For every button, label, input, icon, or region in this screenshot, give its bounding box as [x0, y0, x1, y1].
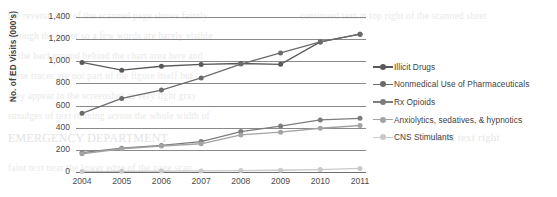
legend-item[interactable]: CNS Stimulants — [373, 128, 555, 146]
x-axis-tick-label: 2008 — [224, 176, 258, 186]
legend-item-label: CNS Stimulants — [393, 132, 453, 142]
y-axis-tick-label: 600 — [26, 100, 70, 110]
x-axis-tick-label: 2005 — [105, 176, 139, 186]
x-axis-tick-labels: 20042005200620072008200920102011 — [76, 176, 366, 192]
x-axis-tick-label: 2004 — [65, 176, 99, 186]
data-point — [238, 62, 243, 67]
data-point — [318, 126, 323, 131]
data-point — [159, 88, 164, 93]
data-point — [318, 167, 323, 172]
data-point — [80, 111, 85, 116]
data-point — [358, 32, 363, 37]
legend-marker-icon — [373, 97, 393, 106]
x-axis-tick-label: 2011 — [343, 176, 377, 186]
chart-legend: Illicit DrugsNonmedical Use of Pharmaceu… — [373, 58, 555, 146]
legend-item[interactable]: Anxiolytics, sedatives, & hypnotics — [373, 111, 555, 129]
data-point — [119, 169, 124, 174]
y-axis-tick-label: 1,400 — [26, 11, 70, 21]
data-point — [199, 141, 204, 146]
chart-container: the reverse side of the scanned page sho… — [0, 0, 557, 197]
data-point — [358, 116, 363, 121]
data-point — [80, 151, 85, 156]
data-point — [80, 169, 85, 174]
legend-item[interactable]: Illicit Drugs — [373, 58, 555, 76]
legend-marker-icon — [373, 62, 393, 71]
y-axis-tick-label: 1,200 — [26, 33, 70, 43]
data-point — [358, 166, 363, 171]
data-point — [318, 39, 323, 44]
data-point — [358, 123, 363, 128]
data-point — [159, 64, 164, 69]
plot-area — [76, 17, 366, 172]
data-point — [278, 130, 283, 135]
data-point — [278, 168, 283, 173]
y-axis-tick-label: 1,000 — [26, 55, 70, 65]
data-point — [199, 62, 204, 67]
data-point — [119, 68, 124, 73]
x-axis-tick-label: 2010 — [303, 176, 337, 186]
y-axis-tick-label: 800 — [26, 77, 70, 87]
data-point — [119, 146, 124, 151]
x-axis-tick-label: 2009 — [264, 176, 298, 186]
series-layer — [76, 17, 366, 172]
legend-marker-icon — [373, 80, 393, 89]
data-point — [159, 169, 164, 174]
x-axis-tick-label: 2007 — [184, 176, 218, 186]
series-line — [82, 34, 360, 113]
y-axis-tick-labels: 1,4001,2001,0008006004002000 — [26, 0, 70, 197]
legend-item-label: Anxiolytics, sedatives, & hypnotics — [393, 115, 522, 125]
legend-item[interactable]: Nonmedical Use of Pharmaceuticals — [373, 76, 555, 94]
data-point — [119, 96, 124, 101]
y-axis-title: No. of ED Visits (000's) — [9, 0, 18, 117]
x-axis-tick-label: 2006 — [144, 176, 178, 186]
legend-marker-icon — [373, 133, 393, 142]
data-point — [318, 117, 323, 122]
legend-item-label: Rx Opioids — [393, 97, 435, 107]
legend-item[interactable]: Rx Opioids — [373, 93, 555, 111]
y-axis-tick-label: 0 — [26, 166, 70, 176]
data-point — [278, 124, 283, 129]
data-point — [278, 62, 283, 67]
data-point — [238, 168, 243, 173]
y-axis-tick-label: 200 — [26, 144, 70, 154]
data-point — [80, 60, 85, 65]
data-point — [238, 132, 243, 137]
data-point — [278, 50, 283, 55]
series-line — [82, 34, 360, 70]
data-point — [199, 168, 204, 173]
y-axis-tick-label: 400 — [26, 122, 70, 132]
legend-marker-icon — [373, 115, 393, 124]
legend-item-label: Illicit Drugs — [393, 62, 435, 72]
data-point — [159, 143, 164, 148]
data-point — [199, 75, 204, 80]
legend-item-label: Nonmedical Use of Pharmaceuticals — [393, 79, 529, 89]
